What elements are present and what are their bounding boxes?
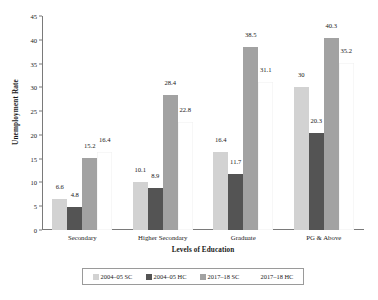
bar-value-label: 16.4 [99, 136, 111, 144]
legend-item: 2017–18 SC [200, 273, 240, 280]
bar-fill [339, 63, 354, 230]
bar-value-label: 28.4 [164, 79, 176, 87]
x-category-label: Higher Secondary [138, 234, 187, 241]
bar-group-bars: 10.18.928.422.8 [123, 16, 204, 230]
legend-item: 2004–05 HC [146, 273, 187, 280]
bar-value-label: 35.2 [340, 47, 352, 55]
bar-fill [148, 188, 163, 230]
unemployment-rate-bar-chart: Unemployment Rate 051015202530354045 6.6… [0, 0, 378, 300]
bar-value-label: 20.3 [310, 117, 322, 125]
bar-value-label: 15.2 [84, 142, 96, 150]
bar-fill [82, 158, 97, 230]
bar-fill [258, 82, 273, 230]
bar-fill [213, 152, 228, 230]
bar-value-label: 10.1 [134, 166, 146, 174]
legend-label: 2017–18 HC [261, 273, 294, 280]
legend-item: 2017–18 HC [253, 273, 294, 280]
bar-fill [163, 95, 178, 230]
legend-swatch [93, 274, 99, 280]
bar-fill [294, 87, 309, 230]
bar-fill [52, 199, 67, 230]
legend-swatch [200, 274, 206, 280]
bar-value-label: 6.6 [56, 183, 64, 191]
bar-value-label: 30 [298, 71, 305, 79]
bar-value-label: 31.1 [260, 66, 272, 74]
y-axis-title: Unemployment Rate [12, 52, 20, 172]
legend-label: 2017–18 SC [208, 273, 240, 280]
x-category-label: Secondary [68, 234, 97, 241]
bar-group-bars: 3020.340.335.2 [284, 16, 365, 230]
bar-group: 6.64.815.216.4Secondary [42, 16, 123, 230]
bar-fill [67, 207, 82, 230]
bar-group: 10.18.928.422.8Higher Secondary [123, 16, 204, 230]
bar-group-bars: 16.411.738.531.1 [203, 16, 284, 230]
x-category-label: Graduate [231, 234, 256, 241]
bar-value-label: 16.4 [215, 136, 227, 144]
x-axis-title: Levels of Education [42, 246, 364, 254]
bar-fill [133, 182, 148, 230]
bar-fill [243, 47, 258, 230]
legend-label: 2004–05 SC [101, 273, 133, 280]
bar-group: 16.411.738.531.1Graduate [203, 16, 284, 230]
plot-area: 051015202530354045 6.64.815.216.4Seconda… [42, 16, 364, 230]
chart-legend: 2004–05 SC2004–05 HC2017–18 SC2017–18 HC [82, 268, 304, 285]
bar-fill [178, 122, 193, 230]
bar-fill [309, 133, 324, 230]
bar-group: 3020.340.335.2PG & Above [284, 16, 365, 230]
legend-swatch [253, 274, 259, 280]
legend-item: 2004–05 SC [93, 273, 133, 280]
bar-value-label: 11.7 [230, 158, 241, 166]
bar-value-label: 22.8 [179, 106, 191, 114]
bar-value-label: 40.3 [325, 22, 337, 30]
bar-fill [228, 174, 243, 230]
bar-value-label: 38.5 [245, 31, 257, 39]
legend-label: 2004–05 HC [154, 273, 187, 280]
bar-group-bars: 6.64.815.216.4 [42, 16, 123, 230]
bar-value-label: 8.9 [151, 172, 159, 180]
legend-swatch [146, 274, 152, 280]
bar-fill [324, 38, 339, 230]
x-category-label: PG & Above [306, 234, 341, 241]
bar-value-label: 4.8 [71, 191, 79, 199]
bar-fill [97, 152, 112, 230]
